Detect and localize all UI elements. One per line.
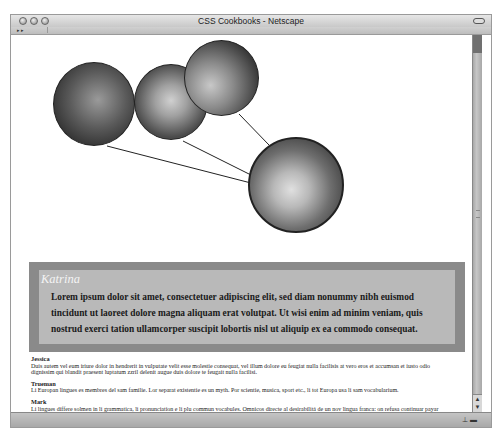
person-bio: Li Europan lingues es membres del sam fa…: [31, 387, 399, 393]
featured-profile-inner: Katrina Lorem ipsum dolor sit amet, cons…: [39, 270, 455, 344]
scroll-up-arrow-icon[interactable]: ▲: [473, 395, 482, 403]
status-bar: ⊥ ▬: [11, 412, 491, 427]
featured-profile: Katrina Lorem ipsum dolor sit amet, cons…: [29, 262, 465, 352]
scroll-down-arrow-icon[interactable]: ▼: [473, 403, 482, 411]
person-bio: Duis autem vel eum iriure dolor in hendr…: [31, 363, 430, 376]
page-content: Katrina Lorem ipsum dolor sit amet, cons…: [11, 35, 467, 413]
status-icons[interactable]: ⊥ ▬: [462, 416, 477, 424]
person-entry: Trueman Li Europan lingues es membres de…: [31, 381, 453, 394]
browser-window: CSS Cookbooks - Netscape ▸ ▸ Katrina Lor…: [10, 14, 492, 428]
scroll-arrows: ▲ ▼: [473, 394, 482, 413]
featured-name: Katrina: [41, 272, 80, 287]
featured-text: Lorem ipsum dolor sit amet, consectetuer…: [51, 289, 441, 337]
photo-katrina[interactable]: [248, 137, 344, 233]
nav-buttons[interactable]: ▸ ▸: [17, 27, 48, 33]
scrollbar-grip-icon: [476, 210, 480, 218]
photo-man-glasses[interactable]: [53, 62, 135, 146]
person-name: Trueman: [31, 381, 453, 388]
person-name: Jessica: [31, 356, 453, 363]
person-entry: Mark Li lingues differe solmen in li gra…: [31, 399, 453, 413]
photo-couple[interactable]: [184, 40, 259, 116]
person-entry: Jessica Duis autem vel eum iriure dolor …: [31, 356, 453, 376]
window-title: CSS Cookbooks - Netscape: [11, 15, 491, 27]
vertical-scrollbar[interactable]: ▲ ▼: [472, 35, 482, 413]
scrollbar-thumb[interactable]: [473, 35, 482, 53]
toolbar: ▸ ▸: [11, 27, 491, 35]
person-name: Mark: [31, 399, 453, 406]
toolbar-toggle-button[interactable]: [473, 18, 485, 24]
people-list: Jessica Duis autem vel eum iriure dolor …: [31, 356, 453, 413]
